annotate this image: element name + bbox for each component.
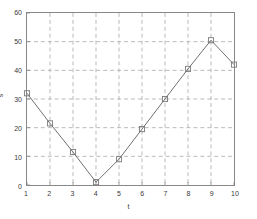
y-tick-label: 60 (2, 9, 22, 16)
x-tick-label: 6 (140, 190, 144, 197)
series-line (27, 40, 234, 182)
y-tick-label: 50 (2, 38, 22, 45)
x-tick-label: 7 (163, 190, 167, 197)
figure-canvas: 0102030405060 12345678910 s t (0, 0, 257, 219)
x-tick-label: 5 (117, 190, 121, 197)
x-tick-label: 10 (231, 190, 239, 197)
x-tick-label: 3 (70, 190, 74, 197)
x-tick-label: 4 (94, 190, 98, 197)
x-tick-label: 8 (187, 190, 191, 197)
plot-area (26, 12, 235, 186)
y-tick-label: 30 (2, 96, 22, 103)
x-axis-title: t (0, 203, 257, 210)
y-tick-label: 40 (2, 67, 22, 74)
y-tick-label: 20 (2, 125, 22, 132)
x-tick-label: 2 (47, 190, 51, 197)
x-tick-label: 9 (210, 190, 214, 197)
x-tick-label: 1 (24, 190, 28, 197)
y-tick-label: 0 (2, 183, 22, 190)
data-series-s (27, 13, 234, 185)
y-axis-title: s (0, 94, 4, 98)
y-tick-label: 10 (2, 154, 22, 161)
